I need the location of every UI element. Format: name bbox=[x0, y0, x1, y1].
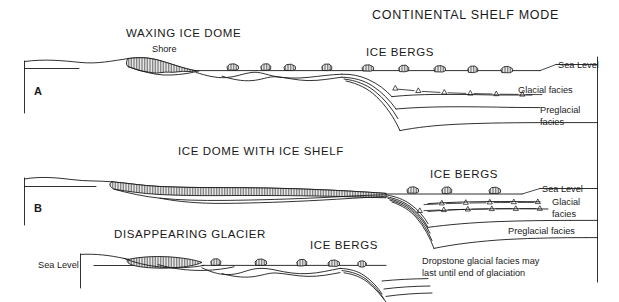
icebergs-label-a: ICE BERGS bbox=[366, 46, 434, 59]
dropstone-horizon-b-upper bbox=[424, 199, 540, 205]
panel-b-drawing bbox=[25, 177, 598, 248]
sea-level-label-a: Sea Level bbox=[558, 60, 599, 71]
glacial-facies-label-a: Glacial facies bbox=[518, 85, 573, 96]
panel-letter-b: B bbox=[34, 202, 42, 215]
icebergs-b bbox=[407, 187, 501, 194]
preglacial-facies-label-b: Preglacial facies bbox=[508, 226, 575, 237]
dropstone-horizon-b-lower bbox=[418, 206, 543, 213]
icebergs-a bbox=[227, 64, 513, 73]
preglacial-facies-label-a-line1: Preglacial bbox=[540, 105, 580, 116]
dropstone-caption-line2: last until end of glaciation bbox=[422, 268, 525, 279]
sea-level-label-b: Sea Level bbox=[542, 184, 583, 195]
glacial-facies-label-b-line1: Glacial bbox=[552, 197, 580, 208]
panel-b-heading: ICE DOME WITH ICE SHELF bbox=[178, 145, 344, 158]
shore-label: Shore bbox=[152, 44, 177, 55]
panel-c-heading: DISAPPEARING GLACIER bbox=[114, 228, 266, 241]
preglacial-facies-label-a-line2: facies bbox=[540, 117, 564, 128]
iceberg-c-small bbox=[358, 261, 366, 267]
icebergs-label-b: ICE BERGS bbox=[430, 168, 498, 181]
panel-letter-a: A bbox=[34, 85, 42, 98]
panel-a-heading: WAXING ICE DOME bbox=[126, 27, 241, 40]
icebergs-label-c: ICE BERGS bbox=[310, 239, 378, 252]
dropstone-caption-line1: Dropstone glacial facies may bbox=[422, 256, 539, 267]
glacial-facies-label-b-line2: facies bbox=[552, 209, 576, 220]
sea-level-label-c: Sea Level bbox=[38, 260, 79, 271]
figure-container: CONTINENTAL SHELF MODE WAXING ICE DOME S… bbox=[0, 0, 619, 302]
figure-title: CONTINENTAL SHELF MODE bbox=[372, 8, 559, 22]
